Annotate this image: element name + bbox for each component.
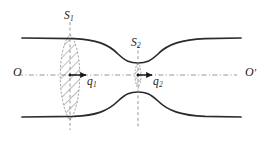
- label-axis-origin-o-prime: O′: [245, 66, 256, 78]
- label-section-s1: S1: [64, 10, 73, 22]
- dot-s2-axis: [137, 74, 140, 77]
- figure-canvas: [0, 0, 267, 141]
- label-section-s2: S2: [131, 37, 140, 49]
- channel-walls: [22, 38, 241, 117]
- dot-s1-axis: [69, 74, 72, 77]
- label-axis-origin-o: O: [13, 66, 22, 78]
- venturi-flux-figure: S1 S2 q1 q2 O O′: [0, 0, 267, 141]
- label-flow-q1: q1: [87, 76, 96, 88]
- label-flow-q2: q2: [153, 76, 162, 88]
- wall-lower: [22, 92, 241, 117]
